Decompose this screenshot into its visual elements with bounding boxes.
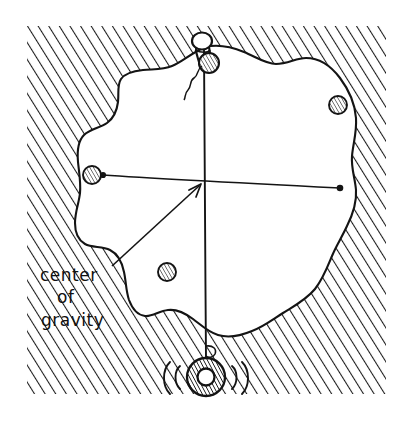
pin-head <box>192 33 212 50</box>
balance-line-right-endpoint <box>337 185 344 192</box>
figure-canvas: center of gravity <box>0 0 412 427</box>
balance-line-left-endpoint <box>100 172 106 178</box>
plumb-bob <box>187 358 225 396</box>
hole-upper-right <box>329 96 347 114</box>
string-knot <box>199 53 219 73</box>
label-line-center: center <box>40 265 98 285</box>
label-line-gravity: gravity <box>41 310 104 330</box>
plumb-bob-hole <box>198 369 215 386</box>
hole-left <box>83 166 101 184</box>
center-of-gravity-diagram: center of gravity <box>0 0 412 427</box>
label-line-of: of <box>57 287 75 307</box>
hole-lower-center <box>158 263 176 281</box>
